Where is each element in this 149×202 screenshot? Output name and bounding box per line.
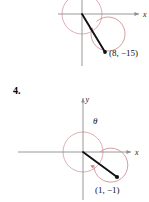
terminal-point-dot <box>103 50 107 54</box>
angle-theta-label: θ <box>93 116 98 126</box>
terminal-ray <box>83 152 117 177</box>
terminal-point-dot <box>115 175 119 179</box>
angle-arc <box>94 148 128 182</box>
worksheet-page: x (8, −15) 4. y x <box>0 0 149 202</box>
terminal-point-label: (1, −1) <box>95 185 120 195</box>
x-axis-arrowhead <box>127 150 132 154</box>
x-axis-label: x <box>142 10 147 19</box>
y-axis-label: y <box>85 95 90 104</box>
figure-angle-1-neg1: y x θ (1, −1) <box>0 92 149 202</box>
terminal-point-label: (8, −15) <box>109 48 138 58</box>
y-axis-arrowhead <box>81 98 85 103</box>
figure-angle-8-neg15: x (8, −15) <box>0 0 149 80</box>
x-axis-arrowhead <box>135 12 140 16</box>
x-axis-label: x <box>134 148 139 157</box>
angle-arc <box>91 17 125 51</box>
